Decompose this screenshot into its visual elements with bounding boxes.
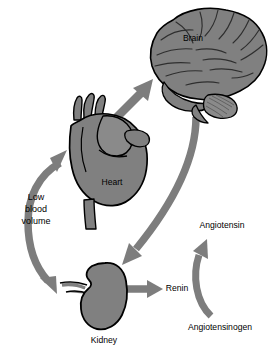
kidney-label: Kidney	[91, 335, 118, 345]
low-blood-volume-label-line2: blood	[25, 204, 47, 214]
brain-label: Brain	[183, 33, 203, 43]
raas-diagram: Brain Heart	[0, 0, 275, 355]
low-blood-volume-label-line1: Low	[28, 192, 45, 202]
renin-label: Renin	[166, 283, 189, 293]
heart-label: Heart	[101, 177, 123, 187]
angiotensinogen-label: Angiotensinogen	[188, 322, 252, 332]
raas-diagram-canvas: Brain Heart	[0, 0, 275, 355]
angiotensin-label: Angiotensin	[200, 220, 245, 230]
low-blood-volume-label-line3: volume	[21, 216, 50, 226]
